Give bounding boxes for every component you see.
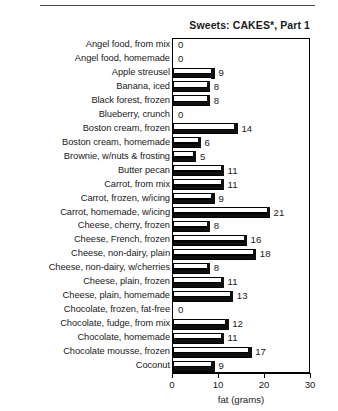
bar-row: Blueberry, crunch0 xyxy=(0,108,338,122)
x-tick-label: 20 xyxy=(252,379,276,390)
bar xyxy=(173,151,196,162)
bar-end-cap xyxy=(221,179,224,190)
category-label: Carrot, homemade, w/icing xyxy=(4,207,170,218)
bar-front-face xyxy=(173,282,224,287)
bar-value-label: 11 xyxy=(228,179,238,190)
bar-value-label: 11 xyxy=(228,332,238,343)
bar-value-label: 21 xyxy=(274,207,285,218)
category-label: Brownie, w/nuts & frosting xyxy=(4,151,170,162)
bar-row: Boston cream, frozen14 xyxy=(0,122,338,136)
bar-end-cap xyxy=(267,207,270,218)
category-label: Cheese, plain, frozen xyxy=(4,276,170,287)
bar-row: Angel food, from mix0 xyxy=(0,38,338,52)
bar-end-cap xyxy=(193,151,196,162)
bar-front-face xyxy=(173,171,224,176)
bar-value-label: 9 xyxy=(218,193,223,204)
bar-row: Chocolate, homemade11 xyxy=(0,331,338,345)
bar xyxy=(173,361,214,372)
bar xyxy=(173,81,210,92)
bar-front-face xyxy=(173,352,251,357)
bar-end-cap xyxy=(248,347,251,358)
bar-row: Apple streusel9 xyxy=(0,66,338,80)
bar xyxy=(173,249,256,260)
bar-value-label: 12 xyxy=(232,318,243,329)
x-tick-mark xyxy=(172,373,173,378)
category-label: Butter pecan xyxy=(4,165,170,176)
bar xyxy=(173,193,214,204)
bar-front-face xyxy=(173,269,210,274)
bar-value-label: 18 xyxy=(260,248,271,259)
category-label: Boston cream, homemade xyxy=(4,137,170,148)
bar-value-label: 0 xyxy=(178,39,183,50)
bar-value-label: 8 xyxy=(214,262,219,273)
bar-value-label: 13 xyxy=(237,290,248,301)
bar-row: Angel food, homemade0 xyxy=(0,52,338,66)
page-top-divider xyxy=(40,5,315,6)
x-tick-mark xyxy=(310,373,311,378)
x-tick-label: 30 xyxy=(298,379,322,390)
x-axis-title: fat (grams) xyxy=(172,394,310,405)
bar xyxy=(173,165,224,176)
bar xyxy=(173,123,237,134)
bar-value-label: 0 xyxy=(178,53,183,64)
bar xyxy=(173,68,214,79)
bar xyxy=(173,137,201,148)
bar-value-label: 11 xyxy=(228,165,238,176)
category-label: Chocolate, frozen, fat-free xyxy=(4,304,170,315)
category-label: Cheese, French, frozen xyxy=(4,234,170,245)
bar-row: Brownie, w/nuts & frosting5 xyxy=(0,150,338,164)
category-label: Cheese, non-dairy, plain xyxy=(4,248,170,259)
bar-front-face xyxy=(173,87,210,92)
bar-front-face xyxy=(173,255,256,260)
category-label: Apple streusel xyxy=(4,67,170,78)
bar-end-cap xyxy=(244,235,247,246)
bar-row: Cheese, plain, homemade13 xyxy=(0,289,338,303)
category-label: Carrot, frozen, w/icing xyxy=(4,193,170,204)
category-label: Chocolate, fudge, from mix xyxy=(4,318,170,329)
bar-end-cap xyxy=(230,291,233,302)
bar-row: Carrot, homemade, w/icing21 xyxy=(0,206,338,220)
category-label: Black forest, frozen xyxy=(4,95,170,106)
bar-row: Chocolate, fudge, from mix12 xyxy=(0,317,338,331)
bar-row: Butter pecan11 xyxy=(0,164,338,178)
bar-value-label: 0 xyxy=(178,109,183,120)
chart-page: Sweets: CAKES*, Part 1 Angel food, from … xyxy=(0,0,338,411)
bar-row: Coconut9 xyxy=(0,359,338,373)
bar-row: Cheese, French, frozen16 xyxy=(0,233,338,247)
bar-front-face xyxy=(173,366,214,371)
bar xyxy=(173,221,210,232)
bar-rows-container: Angel food, from mix0Angel food, homemad… xyxy=(0,38,338,373)
bar-end-cap xyxy=(207,95,210,106)
bar-front-face xyxy=(173,227,210,232)
bar-front-face xyxy=(173,324,228,329)
x-tick-label: 10 xyxy=(206,379,230,390)
bar-row: Chocolate mousse, frozen17 xyxy=(0,345,338,359)
x-axis-line xyxy=(172,373,310,374)
bar-front-face xyxy=(173,101,210,106)
bar xyxy=(173,333,224,344)
bar xyxy=(173,235,247,246)
x-tick-mark xyxy=(264,373,265,378)
bar xyxy=(173,347,251,358)
bar-value-label: 8 xyxy=(214,220,219,231)
bar-end-cap xyxy=(221,277,224,288)
bar-end-cap xyxy=(221,165,224,176)
category-label: Boston cream, frozen xyxy=(4,123,170,134)
bar-value-label: 9 xyxy=(218,360,223,371)
x-tick-mark xyxy=(218,373,219,378)
bar-end-cap xyxy=(211,193,214,204)
category-label: Cheese, non-dairy, w/cherries xyxy=(4,262,170,273)
bar-front-face xyxy=(173,199,214,204)
bar-value-label: 9 xyxy=(218,67,223,78)
bar-end-cap xyxy=(234,123,237,134)
bar-value-label: 8 xyxy=(214,81,219,92)
bar-front-face xyxy=(173,185,224,190)
bar-row: Cheese, non-dairy, w/cherries8 xyxy=(0,261,338,275)
bar-row: Chocolate, frozen, fat-free0 xyxy=(0,303,338,317)
bar-end-cap xyxy=(253,249,256,260)
bar-value-label: 11 xyxy=(228,276,238,287)
category-label: Angel food, from mix xyxy=(4,39,170,50)
bar xyxy=(173,291,233,302)
bar-row: Boston cream, homemade6 xyxy=(0,136,338,150)
bar-value-label: 5 xyxy=(200,151,205,162)
